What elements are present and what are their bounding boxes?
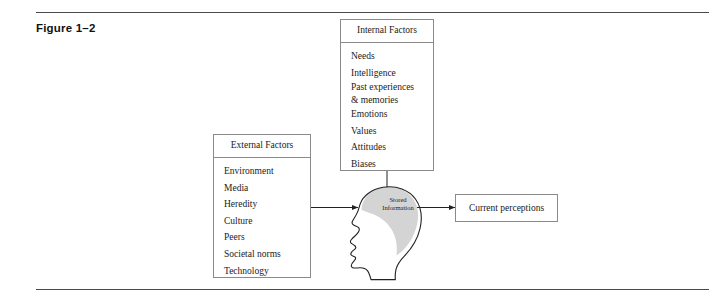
current-perceptions-box: Current perceptions [455,194,558,222]
external-factors-list: Environment Media Heredity Culture Peers… [214,158,310,283]
stored-information-line1: Stored [362,196,434,204]
internal-factors-box: Internal Factors Needs Intelligence Past… [340,19,434,171]
stored-information-line2: Information [362,204,434,212]
list-item: Heredity [224,196,310,213]
top-rule [36,12,709,13]
list-item: Past experiences [351,81,433,94]
internal-factors-title: Internal Factors [341,20,433,43]
list-item: Environment [224,163,310,180]
external-factors-box: External Factors Environment Media Hered… [213,134,311,278]
internal-factors-list: Needs Intelligence Past experiences & me… [341,43,433,177]
list-item: Attitudes [351,139,433,156]
bottom-rule [36,289,709,290]
list-item: Societal norms [224,246,310,263]
external-factors-title: External Factors [214,135,310,158]
stored-information-label: Stored Information [362,196,434,212]
list-item: Intelligence [351,65,433,82]
list-item: Culture [224,213,310,230]
list-item: Emotions [351,106,433,123]
list-item: & memories [351,94,433,107]
list-item: Technology [224,263,310,280]
figure-label: Figure 1–2 [36,22,96,34]
list-item: Values [351,123,433,140]
list-item: Biases [351,156,433,173]
list-item: Peers [224,229,310,246]
list-item: Media [224,180,310,197]
list-item: Needs [351,48,433,65]
